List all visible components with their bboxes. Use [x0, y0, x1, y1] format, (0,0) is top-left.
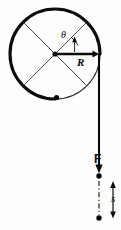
displacement-arrow-head-bottom	[110, 212, 116, 219]
cord-end-dot	[96, 173, 101, 178]
force-label: F	[94, 153, 101, 165]
disk-center-dot	[52, 51, 57, 56]
displacement-arrow-head-top	[110, 181, 116, 188]
rim-reference-dot	[54, 95, 59, 100]
angle-label: θ	[61, 30, 66, 40]
final-position-dot	[96, 215, 101, 220]
angle-arc-arrow-head	[72, 37, 77, 43]
displacement-label: s	[111, 193, 115, 204]
radius-label: R	[77, 57, 84, 68]
physics-figure: θ R F s	[0, 0, 121, 230]
